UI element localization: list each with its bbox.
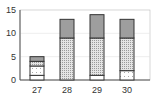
y-tick-label: 0 — [11, 75, 16, 85]
x-tick-label: 30 — [122, 85, 132, 95]
bar-segment — [60, 19, 74, 38]
x-tick-label: 29 — [92, 85, 102, 95]
y-tick-label: 15 — [6, 5, 16, 15]
bar-segment — [30, 66, 44, 75]
y-tick-label: 5 — [11, 52, 16, 62]
bar-segment — [30, 57, 44, 62]
y-tick-label: 10 — [6, 28, 16, 38]
bar-segment — [120, 19, 134, 38]
stacked-bar-chart: 05101527282930 — [0, 0, 155, 98]
bar-segment — [90, 75, 104, 80]
bar-segment — [120, 71, 134, 80]
x-tick-label: 28 — [62, 85, 72, 95]
x-tick-label: 27 — [32, 85, 42, 95]
bar-segment — [90, 38, 104, 75]
bar-segment — [30, 61, 44, 66]
bar-segment — [30, 75, 44, 80]
bar-segment — [60, 38, 74, 80]
bar-segment — [90, 15, 104, 38]
bar-segment — [120, 38, 134, 71]
plot-area: 05101527282930 — [6, 5, 150, 95]
